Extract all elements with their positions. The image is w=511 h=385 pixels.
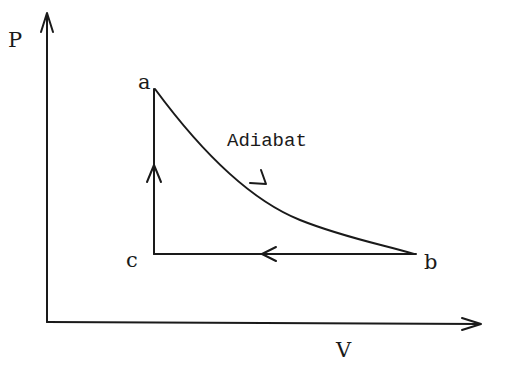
adiabat-arrow-icon bbox=[250, 170, 266, 184]
point-c-label: c bbox=[126, 250, 138, 271]
point-b-label: b bbox=[424, 252, 437, 273]
diagram-lines bbox=[0, 0, 511, 385]
point-a-label: a bbox=[138, 72, 151, 93]
p-axis-label: P bbox=[8, 30, 22, 51]
v-axis-label: V bbox=[336, 340, 351, 361]
pv-diagram: P V a b c Adiabat bbox=[0, 0, 511, 385]
adiabat-label: Adiabat bbox=[227, 132, 307, 151]
process-a-to-b-adiabat bbox=[155, 89, 414, 254]
v-axis bbox=[47, 322, 480, 324]
